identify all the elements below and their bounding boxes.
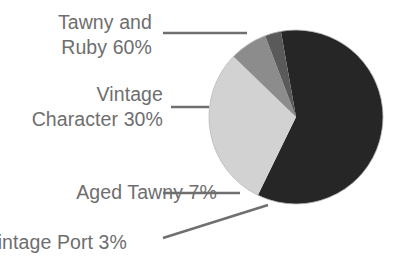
- pie-label-tawny-and-ruby: Tawny and Ruby 60%: [0, 10, 152, 60]
- pie-chart: Tawny and Ruby 60% Vintage Character 30%…: [0, 0, 395, 272]
- leader-line-vintage-port: [163, 205, 268, 238]
- pie-label-vintage-character: Vintage Character 30%: [0, 82, 163, 132]
- pie-label-aged-tawny: Aged Tawny 7%: [17, 180, 217, 205]
- pie-label-vintage-port: Vintage Port 3%: [0, 230, 127, 255]
